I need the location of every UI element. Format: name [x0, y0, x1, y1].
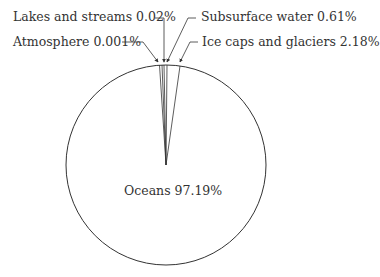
label-oceans: Oceans 97.19% — [124, 184, 222, 198]
label-subsurface-water: Subsurface water 0.61% — [201, 10, 357, 24]
label-atmosphere: Atmosphere 0.001% — [13, 35, 141, 49]
label-lakes-and-streams: Lakes and streams 0.02% — [13, 10, 176, 24]
label-ice-caps-and-glaciers: Ice caps and glaciers 2.18% — [202, 35, 380, 49]
